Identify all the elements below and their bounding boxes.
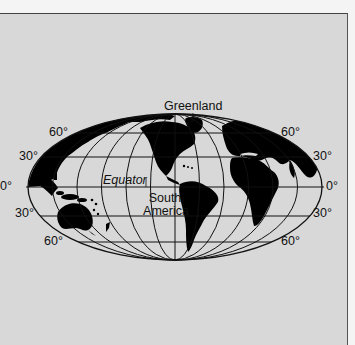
lat-label-left-60s: 60° bbox=[44, 235, 63, 248]
label-greenland: Greenland bbox=[164, 100, 222, 113]
lat-label-left-0: 0° bbox=[0, 180, 12, 193]
label-south-america-line1: South bbox=[143, 192, 187, 205]
lat-label-right-0: 0° bbox=[326, 180, 338, 193]
lat-label-left-60n: 60° bbox=[49, 126, 68, 139]
lat-label-right-60s: 60° bbox=[281, 235, 300, 248]
lat-label-right-60n: 60° bbox=[281, 126, 300, 139]
lat-label-right-30n: 30° bbox=[313, 150, 332, 163]
label-south-america-line2: America bbox=[141, 205, 191, 218]
lat-label-right-30s: 30° bbox=[313, 207, 332, 220]
world-map bbox=[0, 0, 355, 345]
lat-label-left-30n: 30° bbox=[19, 150, 38, 163]
lat-label-left-30s: 30° bbox=[15, 207, 34, 220]
label-equator: Equator bbox=[103, 174, 147, 187]
